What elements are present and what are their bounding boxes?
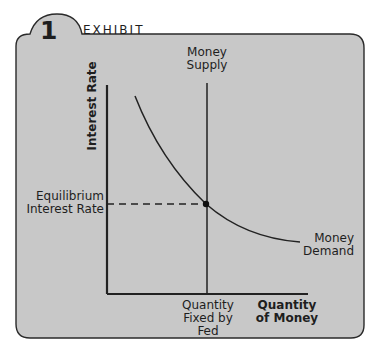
money-demand-label: Money Demand (300, 232, 354, 258)
exhibit-label: EXHIBIT (83, 24, 144, 37)
quantity-fixed-line3: Fed (180, 325, 236, 338)
y-axis-label: Interest Rate (86, 71, 99, 151)
money-demand-label-line2: Demand (300, 245, 354, 258)
money-supply-label: Money Supply (180, 46, 234, 72)
equilibrium-point (203, 201, 209, 207)
x-axis-label: Quantity of Money (252, 299, 322, 325)
exhibit-number: 1 (40, 18, 57, 44)
equilibrium-label-line2: Interest Rate (22, 203, 104, 216)
x-axis-label-line2: of Money (252, 312, 322, 325)
equilibrium-rate-label: Equilibrium Interest Rate (22, 190, 104, 216)
quantity-fixed-label: Quantity Fixed by Fed (180, 299, 236, 338)
money-supply-label-line2: Supply (180, 59, 234, 72)
